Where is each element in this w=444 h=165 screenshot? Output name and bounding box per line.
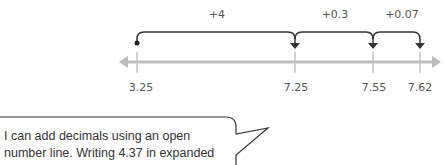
start-dot-icon <box>135 41 140 46</box>
jump-arc-0-07 <box>373 32 420 44</box>
speech-bubble-line: I can add decimals using an open <box>4 128 234 145</box>
arrowhead-icon <box>290 43 300 49</box>
speech-bubble-text: I can add decimals using an open number … <box>4 128 234 162</box>
jump-arcs <box>137 32 420 44</box>
tick-label-7-25: 7.25 <box>284 81 309 94</box>
tick-label-7-62: 7.62 <box>408 81 433 94</box>
jump-label-4: +4 <box>209 8 225 21</box>
left-arrow-icon <box>119 56 128 68</box>
arrowhead-icon <box>368 43 378 49</box>
number-line <box>119 56 441 68</box>
arrowhead-icon <box>415 43 425 49</box>
tick-label-3-25: 3.25 <box>129 81 154 94</box>
jump-label-0-07: +0.07 <box>385 8 419 21</box>
right-arrow-icon <box>432 56 441 68</box>
jump-label-0-3: +0.3 <box>322 8 349 21</box>
tick-label-7-55: 7.55 <box>362 81 387 94</box>
jump-arc-4 <box>137 32 295 44</box>
open-number-line-diagram: +4 +0.3 +0.07 3.25 7.25 7.55 7.62 I can … <box>0 0 444 165</box>
speech-bubble-line: number line. Writing 4.37 in expanded <box>4 145 234 162</box>
jump-arc-0-3 <box>295 32 373 44</box>
